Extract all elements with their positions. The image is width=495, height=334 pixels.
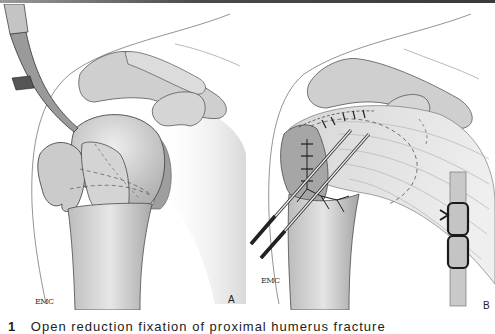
caption-text: Open reduction fixation of proximal hume… <box>31 319 386 334</box>
illustration-panel-a: EMC A <box>0 4 246 310</box>
panel-label-b: B <box>483 300 490 311</box>
fracture-illustration <box>0 4 246 310</box>
figure-caption: 1 Open reduction fixation of proximal hu… <box>8 319 386 334</box>
artist-signature: EMC <box>261 276 280 285</box>
repair-illustration <box>249 4 495 310</box>
figure-number: 1 <box>8 319 16 334</box>
panel-label-a: A <box>228 294 235 305</box>
top-rule <box>0 0 495 3</box>
artist-signature: EMC <box>35 297 54 306</box>
illustration-panel-b: EMC B <box>249 4 495 310</box>
